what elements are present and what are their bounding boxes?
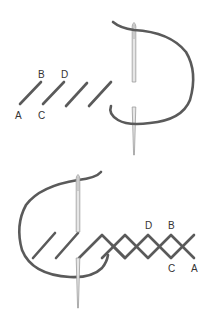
needle-icon	[132, 23, 136, 156]
label-b: B	[38, 69, 45, 80]
stitch-diagram: B D A C	[0, 0, 212, 325]
thread	[19, 172, 108, 277]
thread	[110, 22, 193, 124]
label-a: A	[191, 263, 198, 274]
label-b: B	[168, 220, 175, 231]
zigzag-lower	[102, 235, 194, 258]
label-c: C	[168, 263, 175, 274]
stitch-4	[89, 82, 111, 106]
step1-stitches	[20, 82, 111, 106]
stitch-1	[20, 82, 41, 104]
step2-figure: D B C A	[19, 172, 198, 308]
zigzag-cross-start	[112, 245, 125, 258]
herringbone-stitches	[79, 235, 194, 258]
label-d: D	[145, 220, 152, 231]
label-a: A	[15, 110, 22, 121]
stitch-3	[66, 83, 87, 106]
stitch-1	[33, 233, 55, 258]
label-c: C	[38, 110, 45, 121]
label-d: D	[61, 69, 68, 80]
needle-icon	[76, 175, 80, 309]
step2-stitches	[33, 233, 78, 258]
stitch-2	[56, 233, 78, 258]
step1-figure: B D A C	[15, 22, 193, 155]
stitch-2	[43, 82, 64, 104]
